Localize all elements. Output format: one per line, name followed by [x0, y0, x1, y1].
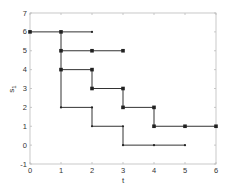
x-axis-label: t — [122, 176, 125, 185]
x-tick-label: 1 — [59, 166, 63, 175]
x-tick-label: 2 — [90, 166, 94, 175]
marker-large — [59, 49, 63, 53]
marker-small — [122, 144, 124, 146]
marker-large — [121, 106, 125, 110]
y-tick-label: 6 — [23, 27, 27, 36]
y-tick-label: 4 — [23, 65, 27, 74]
marker-small — [184, 144, 186, 146]
x-tick-label: 6 — [214, 166, 218, 175]
marker-large — [152, 106, 156, 110]
y-tick-label: 7 — [23, 9, 27, 18]
y-tick-label: -1 — [20, 160, 27, 169]
marker-large — [59, 30, 63, 34]
y-tick-label: 5 — [23, 46, 27, 55]
step-chart: 0123456-101234567 t s1 — [0, 0, 231, 191]
y-tick-label: 0 — [23, 141, 27, 150]
x-tick-label: 4 — [152, 166, 156, 175]
marker-large — [28, 30, 32, 34]
marker-small — [91, 106, 93, 108]
marker-large — [59, 68, 63, 72]
y-axis-label-sub: 1 — [11, 85, 17, 89]
marker-large — [183, 124, 187, 128]
marker-small — [60, 106, 62, 108]
x-tick-label: 5 — [183, 166, 187, 175]
y-tick-label: 1 — [23, 122, 27, 131]
marker-small — [91, 125, 93, 127]
marker-small — [122, 125, 124, 127]
y-tick-label: 2 — [23, 103, 27, 112]
marker-small — [153, 144, 155, 146]
marker-large — [152, 124, 156, 128]
y-tick-label: 3 — [23, 84, 27, 93]
marker-small — [91, 31, 93, 33]
y-axis-label: s1 — [7, 85, 17, 93]
x-tick-label: 0 — [28, 166, 32, 175]
x-tick-label: 3 — [121, 166, 125, 175]
marker-large — [121, 49, 125, 53]
marker-large — [90, 49, 94, 53]
marker-large — [214, 124, 218, 128]
marker-large — [90, 68, 94, 72]
marker-large — [90, 87, 94, 91]
marker-large — [121, 87, 125, 91]
